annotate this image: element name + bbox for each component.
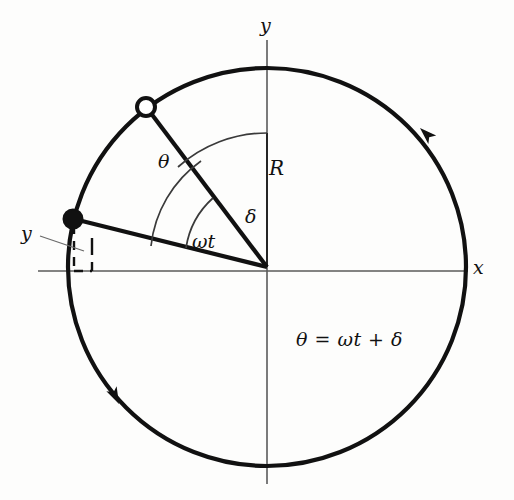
delta-angle-label: δ xyxy=(245,207,256,226)
y-projection-leader-line xyxy=(40,236,84,251)
figure-canvas: y x y θ ωt δ R θ = ωt + δ xyxy=(0,0,514,500)
omega-t-angle-label: ωt xyxy=(192,232,215,251)
arc-delta xyxy=(178,133,267,167)
y-axis-label: y xyxy=(260,16,271,35)
equation-label: θ = ωt + δ xyxy=(296,330,403,349)
theta-angle-label: θ xyxy=(158,152,169,171)
y-projection-label: y xyxy=(21,224,32,243)
circular-motion-diagram xyxy=(0,0,514,500)
open-point-marker[interactable] xyxy=(137,98,155,116)
radius-R-label: R xyxy=(269,158,284,178)
x-axis-label: x xyxy=(473,258,484,277)
filled-point-marker[interactable] xyxy=(64,210,83,229)
